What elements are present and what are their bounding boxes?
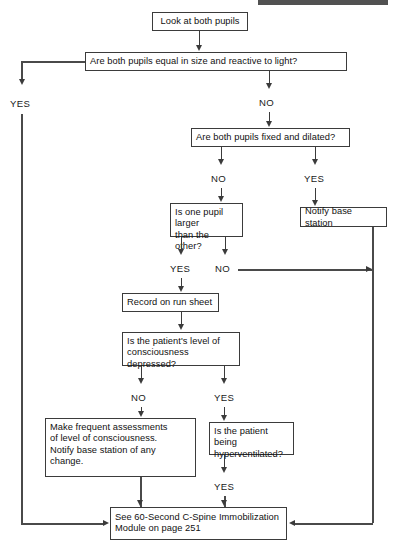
page-header-strip xyxy=(258,0,388,5)
node-look-at-both-pupils: Look at both pupils xyxy=(152,12,248,31)
connector-equal-yes-horizontal xyxy=(21,61,85,63)
arrowhead-hyper-yes-seg1 xyxy=(221,467,227,473)
arrowhead-fixed-no-seg1 xyxy=(218,159,224,165)
arrowhead-larger-yes-seg1 xyxy=(178,249,184,255)
arrowhead-fixed-yes-seg1 xyxy=(312,159,318,165)
arrowhead-loc-no-seg1 xyxy=(138,378,144,384)
branch-label-hyperventilated-yes: YES xyxy=(214,481,234,492)
node-make-frequent-assessments: Make frequent assessments of level of co… xyxy=(45,418,196,477)
connector-left-spine xyxy=(21,114,23,524)
branch-label-equal-no: NO xyxy=(259,97,274,108)
arrowhead-record-to-loc xyxy=(178,324,184,330)
branch-label-loc-no: NO xyxy=(131,392,146,403)
node-cspine-immobilization-module: See 60-Second C-Spine Immobilization Mod… xyxy=(110,507,287,540)
connector-look-to-equal xyxy=(199,31,200,46)
arrowhead-look-to-equal xyxy=(196,45,202,51)
connector-right-spine xyxy=(372,227,374,523)
node-loc-depressed: Is the patient's level of consciousness … xyxy=(122,332,240,366)
connector-right-spine-to-final xyxy=(295,523,373,525)
arrowhead-larger-no-to-right-spine xyxy=(366,266,372,272)
arrowhead-right-spine-to-final xyxy=(289,520,295,526)
branch-label-fixed-yes: YES xyxy=(304,173,324,184)
connector-larger-no-to-right-spine xyxy=(238,269,373,271)
arrowhead-assessments-to-final xyxy=(137,500,143,506)
connector-left-spine-to-final xyxy=(21,523,105,525)
branch-label-larger-no: NO xyxy=(215,263,230,274)
arrowhead-equal-yes xyxy=(19,79,25,85)
branch-label-equal-yes: YES xyxy=(10,98,30,109)
arrowhead-fixed-yes-seg2 xyxy=(312,200,318,206)
branch-label-larger-yes: YES xyxy=(170,263,190,274)
arrowhead-equal-no-seg2 xyxy=(266,121,272,127)
arrowhead-hyper-yes-seg2 xyxy=(221,500,227,506)
branch-label-fixed-no: NO xyxy=(211,173,226,184)
arrowhead-equal-no-seg1 xyxy=(266,83,272,89)
arrowhead-loc-yes-seg2 xyxy=(221,415,227,421)
node-notify-base-station: Notify base station xyxy=(300,207,387,227)
node-is-patient-hyperventilated: Is the patient being hyperventilated? xyxy=(209,422,294,455)
node-pupils-fixed-dilated: Are both pupils fixed and dilated? xyxy=(191,128,350,147)
arrowhead-larger-yes-seg2 xyxy=(178,286,184,292)
branch-label-loc-yes: YES xyxy=(214,392,234,403)
node-are-pupils-equal: Are both pupils equal in size and reacti… xyxy=(85,52,347,71)
arrowhead-loc-yes-seg1 xyxy=(221,378,227,384)
node-one-pupil-larger: Is one pupil larger than the other? xyxy=(170,203,243,237)
node-record-on-run-sheet: Record on run sheet xyxy=(122,293,219,312)
arrowhead-fixed-no-seg2 xyxy=(218,196,224,202)
connector-equal-yes-vertical-top xyxy=(21,61,23,81)
arrowhead-left-spine-to-final xyxy=(103,520,109,526)
arrowhead-larger-no-seg1 xyxy=(222,249,228,255)
flowchart-page: Look at both pupils Are both pupils equa… xyxy=(0,0,394,551)
arrowhead-loc-no-seg2 xyxy=(138,411,144,417)
